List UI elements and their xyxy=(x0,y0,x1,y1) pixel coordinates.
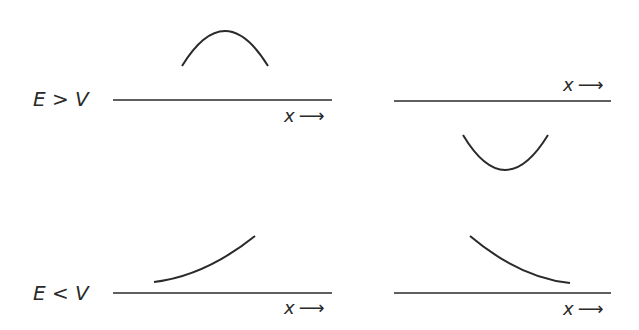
axis-x-label: x xyxy=(284,105,295,126)
axis-label-top-right: x⟶ xyxy=(563,74,603,95)
axis-label-bottom-left: x⟶ xyxy=(284,297,324,318)
row-label-e-greater-v: E > V xyxy=(33,87,89,111)
curve-decaying xyxy=(470,236,570,283)
diagram-canvas xyxy=(0,0,639,330)
arrow-right-icon: ⟶ xyxy=(578,298,604,319)
arrow-right-icon: ⟶ xyxy=(299,105,325,126)
curve-growing xyxy=(154,236,255,282)
axis-label-top-left: x⟶ xyxy=(284,105,324,126)
arrow-right-icon: ⟶ xyxy=(578,74,604,95)
axis-x-label: x xyxy=(284,297,295,318)
curve-concave-up xyxy=(463,135,548,170)
row-label-e-less-v: E < V xyxy=(33,281,89,305)
axis-x-label: x xyxy=(563,298,574,319)
curve-concave-down xyxy=(182,31,268,66)
axis-label-bottom-right: x⟶ xyxy=(563,298,603,319)
axis-x-label: x xyxy=(563,74,574,95)
arrow-right-icon: ⟶ xyxy=(299,297,325,318)
